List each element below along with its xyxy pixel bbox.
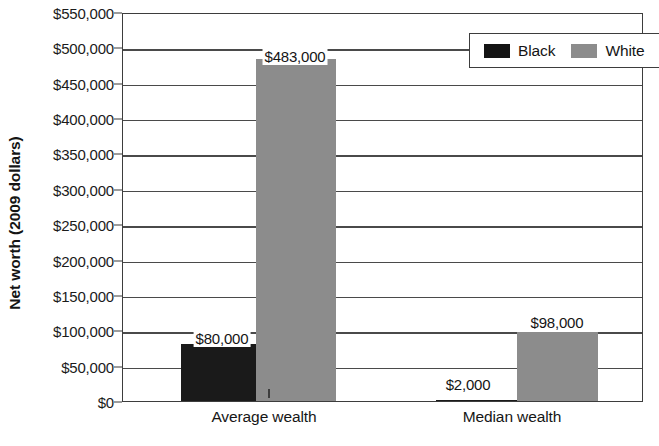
y-axis-tick-label: $200,000: [28, 252, 114, 269]
y-axis-tick-mark: [114, 402, 122, 403]
y-axis-tick-mark: [114, 13, 122, 14]
y-axis-tick-mark: [114, 83, 122, 84]
gridline: [123, 297, 642, 298]
bar-chart: Net worth (2009 dollars) $0$50,000$100,0…: [0, 0, 659, 446]
legend-swatch-icon: [571, 44, 597, 58]
y-axis-tick-label: $350,000: [28, 146, 114, 163]
gridline: [123, 85, 642, 86]
bar-value-label: $98,000: [529, 314, 586, 331]
legend-entry-white[interactable]: White: [571, 42, 644, 60]
y-axis-tick-label: $100,000: [28, 323, 114, 340]
y-axis-tick-mark: [114, 189, 122, 190]
y-axis-tick-label: $150,000: [28, 287, 114, 304]
gridline: [123, 262, 642, 263]
bar-white-median: [517, 332, 598, 401]
y-axis-tick-mark: [114, 366, 122, 367]
y-axis-tick-label: $0: [28, 394, 114, 411]
x-axis-category-label: Median wealth: [463, 408, 562, 426]
legend-entry-black[interactable]: Black: [484, 42, 555, 60]
x-axis-category-labels: Average wealthMedian wealth: [122, 408, 643, 434]
legend-label: Black: [518, 42, 555, 60]
gridline: [123, 120, 642, 121]
gridline: [123, 191, 642, 192]
y-axis-tick-label: $550,000: [28, 5, 114, 22]
bar-value-label: $483,000: [263, 48, 328, 65]
legend-swatch-icon: [484, 44, 510, 58]
y-axis-tick-mark: [114, 295, 122, 296]
legend-label: White: [605, 42, 644, 60]
y-axis-title: Net worth (2009 dollars): [0, 0, 30, 446]
bar-black-median: [436, 400, 517, 402]
y-axis-tick-label: $50,000: [28, 358, 114, 375]
bar-black-average: [181, 344, 263, 401]
y-axis-tick-labels: $0$50,000$100,000$150,000$200,000$250,00…: [28, 0, 114, 446]
bar-value-label: $80,000: [194, 330, 251, 347]
y-axis-tick-label: $400,000: [28, 111, 114, 128]
y-axis-tick-mark: [114, 331, 122, 332]
y-axis-tick-label: $450,000: [28, 75, 114, 92]
y-axis-tick-mark: [114, 119, 122, 120]
bar-white-average: [256, 59, 336, 401]
x-axis-category-label: Average wealth: [211, 408, 316, 426]
y-axis-tick-label: $250,000: [28, 217, 114, 234]
chart-legend: BlackWhite: [469, 33, 659, 68]
category-separator-tick: [268, 389, 270, 398]
gridline: [123, 226, 642, 227]
y-axis-tick-label: $300,000: [28, 181, 114, 198]
y-axis-tick-mark: [114, 260, 122, 261]
gridline: [123, 155, 642, 156]
y-axis-tick-mark: [114, 48, 122, 49]
y-axis-tick-mark: [114, 225, 122, 226]
y-axis-tick-label: $500,000: [28, 40, 114, 57]
y-axis-tick-mark: [114, 154, 122, 155]
bar-value-label: $2,000: [444, 376, 493, 393]
